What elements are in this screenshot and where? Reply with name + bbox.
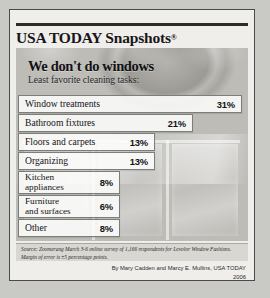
bar-chart: Window treatments 31% Bathroom fixtures … xyxy=(18,95,246,238)
bar-row: Window treatments 31% xyxy=(18,95,246,113)
bar-row: Organizing 13% xyxy=(18,152,246,170)
chart-headline: We don't do windows xyxy=(28,58,154,75)
bar-row: Furniture and surfaces 6% xyxy=(18,195,246,218)
bar-value: 13% xyxy=(130,137,154,148)
bar-label: Floors and carpets xyxy=(19,137,130,147)
bar-floors-and-carpets: Floors and carpets 13% xyxy=(18,133,155,151)
bar-label: Bathroom fixtures xyxy=(19,118,168,128)
source-note: Source: Zoomerang March 3-6 online surve… xyxy=(16,243,248,261)
byline-credit: By Mary Cadden and Marcy E. Mullins, USA… xyxy=(112,265,246,271)
bar-row: Kitchen appliances 8% xyxy=(18,171,246,194)
bar-window-treatments: Window treatments 31% xyxy=(18,95,242,113)
chart-subhead: Least favorite cleaning tasks: xyxy=(28,75,139,85)
bar-value: 6% xyxy=(100,201,119,212)
bar-value: 21% xyxy=(168,118,192,129)
bar-bathroom-fixtures: Bathroom fixtures 21% xyxy=(18,114,193,132)
bar-value: 8% xyxy=(100,223,119,234)
bar-row: Bathroom fixtures 21% xyxy=(18,114,246,132)
bar-label: Window treatments xyxy=(19,99,217,109)
bar-value: 8% xyxy=(100,177,119,188)
bar-value: 13% xyxy=(130,156,154,167)
bar-label: Other xyxy=(19,223,100,233)
card-inner: USA TODAY Snapshots® We don't do windows… xyxy=(10,10,254,280)
bar-organizing: Organizing 13% xyxy=(18,152,155,170)
chart-photo-panel: We don't do windows Least favorite clean… xyxy=(16,48,248,241)
bar-row: Other 8% xyxy=(18,219,246,237)
masthead-title: USA TODAY Snapshots® xyxy=(16,28,248,47)
snapshot-card: USA TODAY Snapshots® We don't do windows… xyxy=(9,9,255,281)
bar-label: Organizing xyxy=(19,156,130,166)
bar-other: Other 8% xyxy=(18,219,120,237)
snapshot-page: USA TODAY Snapshots® We don't do windows… xyxy=(0,0,270,298)
bar-kitchen-appliances: Kitchen appliances 8% xyxy=(18,171,120,194)
bar-furniture-and-surfaces: Furniture and surfaces 6% xyxy=(18,195,120,218)
registered-trademark-icon: ® xyxy=(171,33,177,42)
bar-label: Furniture and surfaces xyxy=(19,197,100,216)
byline-year: 2006 xyxy=(26,273,246,281)
masthead-title-text: USA TODAY Snapshots xyxy=(16,29,171,47)
bar-label: Kitchen appliances xyxy=(19,173,100,192)
masthead-rule xyxy=(16,23,248,26)
bar-value: 31% xyxy=(217,99,241,110)
bar-row: Floors and carpets 13% xyxy=(18,133,246,151)
byline: By Mary Cadden and Marcy E. Mullins, USA… xyxy=(26,264,246,281)
